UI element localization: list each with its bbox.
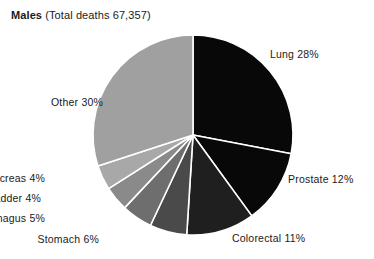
pie-chart-graphic (0, 0, 374, 259)
slice-label-stomach: Stomach 6% (37, 233, 99, 245)
slice-label-colorectal: Colorectal 11% (232, 232, 305, 244)
slice-label-pancreas: Pancreas 4% (0, 172, 45, 184)
pie-slice-group (93, 35, 293, 235)
pie-chart-figure: Males (Total deaths 67,357) Lung 28% Pro… (0, 0, 374, 259)
slice-label-bladder: Bladder 4% (0, 192, 41, 204)
slice-label-lung: Lung 28% (270, 48, 319, 60)
slice-label-prostate: Prostate 12% (288, 173, 353, 185)
slice-label-other: Other 30% (51, 96, 103, 108)
slice-label-oesophagus: Oesophagus 5% (0, 212, 45, 224)
